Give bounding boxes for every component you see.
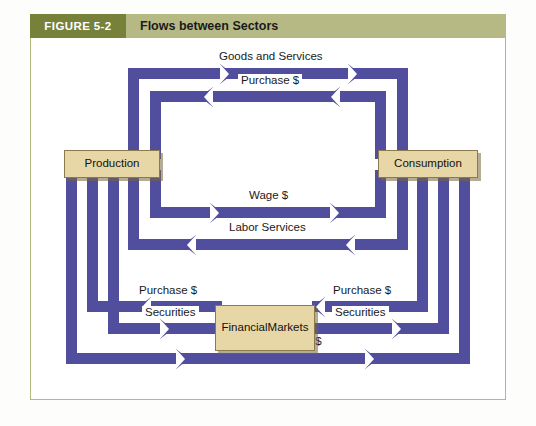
band-segment: [417, 164, 428, 312]
arrowhead-notch: [331, 87, 340, 107]
band-segment: [312, 323, 449, 334]
arrowhead-notch: [187, 235, 196, 255]
flow-label-goods-and-services: Goods and Services: [216, 50, 326, 62]
flow-diagram: Goods and Services Purchase $ Wage $: [30, 38, 506, 400]
arrowhead-notch: [160, 319, 169, 339]
flow-label-securities-right: Securities: [332, 306, 389, 318]
band-segment: [375, 91, 386, 159]
band-segment: [459, 164, 470, 364]
figure-screenshot: FIGURE 5-2 Flows between Sectors Goods a…: [0, 0, 536, 426]
arrowhead-notch: [330, 203, 339, 223]
sector-box-consumption[interactable]: Consumption: [378, 150, 478, 178]
band-segment: [108, 164, 119, 334]
arrowhead-notch: [316, 297, 325, 317]
arrowhead-notch: [204, 87, 213, 107]
band-segment: [150, 207, 386, 218]
sector-box-production[interactable]: Production: [64, 150, 160, 178]
flow-label-wage: Wage $: [246, 189, 291, 201]
sector-label-line2: Markets: [268, 321, 309, 334]
figure-number-badge: FIGURE 5-2: [30, 14, 126, 38]
flow-label-purchase-top: Purchase $: [238, 74, 302, 86]
band-segment: [397, 68, 408, 158]
arrowhead-notch: [392, 319, 401, 339]
flow-label-labor-services: Labor Services: [226, 221, 309, 233]
band-segment: [150, 91, 386, 102]
arrowhead-notch: [365, 349, 374, 369]
sector-label-line1: Financial: [222, 321, 268, 334]
band-segment: [438, 164, 449, 334]
arrowhead-notch: [220, 64, 229, 84]
flow-label-purchase-left: Purchase $: [136, 284, 200, 296]
band-segment: [128, 239, 408, 250]
band-segment: [128, 68, 139, 158]
figure-header: FIGURE 5-2 Flows between Sectors: [30, 14, 506, 38]
sector-box-financial-markets[interactable]: Financial Markets: [215, 305, 315, 351]
arrowhead-notch: [346, 235, 355, 255]
arrowhead-notch: [210, 203, 219, 223]
band-segment: [87, 164, 98, 312]
band-segment: [66, 353, 459, 364]
figure-title: Flows between Sectors: [126, 14, 506, 38]
band-segment: [66, 164, 77, 364]
arrowhead-notch: [176, 349, 185, 369]
flow-label-purchase-right: Purchase $: [330, 284, 394, 296]
band-segment: [397, 170, 408, 250]
band-segment: [128, 170, 139, 250]
flow-label-securities-left: Securities: [142, 306, 199, 318]
arrowhead-notch: [348, 64, 357, 84]
